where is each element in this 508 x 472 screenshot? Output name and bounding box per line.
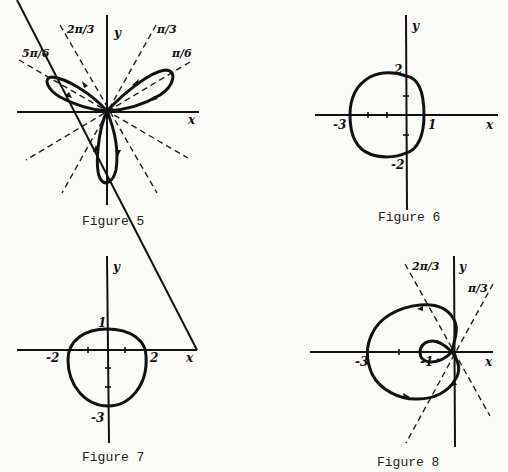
arrow-icon	[82, 81, 88, 88]
tick-label-y-top: 2	[393, 63, 402, 77]
rose-petal-right	[107, 70, 173, 111]
angle-label-pi3: π/3	[156, 23, 177, 36]
y-axis-label: y	[112, 260, 121, 274]
tick-label-y-bottom: -2	[391, 158, 404, 172]
figure-caption: Figure 5	[82, 214, 144, 229]
y-axis-label: y	[113, 26, 122, 40]
y-axis-label: y	[411, 19, 420, 33]
y-axis	[454, 256, 455, 447]
y-axis-label: y	[458, 260, 467, 274]
arrow-icon	[417, 306, 423, 311]
tick-label-x-inner: -1	[420, 355, 433, 369]
tick-label-y-bottom: -3	[91, 411, 104, 425]
tick-label-x-left: -2	[46, 351, 59, 365]
figure-6: y x -3 1 2 -2 Figure 6	[315, 15, 498, 225]
y-axis	[406, 15, 407, 210]
figure-caption: Figure 6	[378, 210, 440, 225]
angle-label-2pi3: 2π/3	[411, 260, 440, 273]
figure-5: y x 5π/6 2π/3 π/3 π/6 Figure 5	[17, 15, 199, 229]
x-axis-label: x	[185, 351, 194, 365]
angle-label-pi3: π/3	[467, 282, 488, 295]
tick-label-y-top: 1	[98, 316, 106, 330]
figure-8: y x -3 -1 2π/3 π/3 Figure 8	[310, 256, 493, 470]
tick-label-x-left: -3	[333, 118, 346, 132]
figure-caption: Figure 8	[377, 455, 439, 470]
x-axis-label: x	[485, 118, 494, 132]
figure-caption: Figure 7	[82, 450, 144, 465]
tick-label-x-right: 2	[149, 351, 158, 365]
angle-label-pi6: π/6	[171, 47, 192, 60]
tick-label-x-right: 1	[428, 118, 436, 132]
x-axis-label: x	[187, 113, 196, 127]
tick-label-x-outer: -3	[355, 355, 368, 369]
figure-sheet: y x 5π/6 2π/3 π/3 π/6 Figure 5 y x -3 1 …	[0, 0, 508, 472]
angle-label-2pi3: 2π/3	[66, 23, 95, 36]
y-axis	[107, 256, 109, 443]
x-axis-label: x	[484, 355, 493, 369]
